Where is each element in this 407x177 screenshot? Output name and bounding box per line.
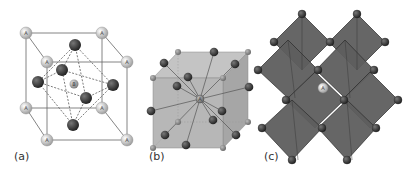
panel-label-b: (b) (149, 150, 165, 163)
svg-text:A: A (45, 137, 49, 143)
svg-text:A: A (198, 96, 202, 102)
panel-a-unit-cell: A A A B A A A A A (20, 27, 133, 146)
perovskite-diagram: A A A B A A A A A (0, 0, 407, 177)
svg-text:A: A (45, 59, 49, 65)
svg-text:A: A (100, 105, 104, 111)
svg-text:A: A (24, 30, 28, 36)
panel-label-a: (a) (14, 150, 29, 163)
panel-label-c: (c) (264, 150, 279, 163)
svg-text:A: A (321, 85, 325, 91)
svg-text:A: A (100, 30, 104, 36)
svg-text:A: A (24, 105, 28, 111)
panel-b-cube: A (147, 48, 254, 151)
panel-c-octahedra: A (254, 10, 402, 164)
svg-text:A: A (125, 59, 129, 65)
svg-text:A: A (125, 137, 129, 143)
svg-text:B: B (72, 81, 76, 87)
